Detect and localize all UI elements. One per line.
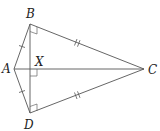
label-b: B <box>25 7 35 21</box>
label-d: D <box>23 118 34 131</box>
kite-diagram: B A X C D <box>0 0 160 131</box>
label-a: A <box>1 62 11 76</box>
right-angle-b <box>30 27 37 34</box>
right-angle-d <box>30 104 37 111</box>
label-x: X <box>34 55 44 69</box>
segment-cd <box>30 69 144 113</box>
right-angle-x <box>30 69 37 76</box>
segment-da <box>14 69 30 113</box>
label-c: C <box>148 63 157 77</box>
segment-bc <box>30 24 144 69</box>
